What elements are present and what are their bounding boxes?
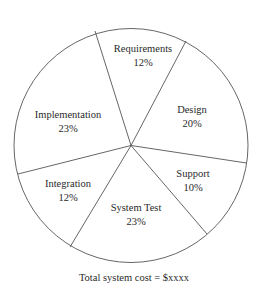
slice-label-implementation: Implementation — [35, 109, 102, 120]
slice-pct-implementation: 23% — [58, 123, 78, 134]
pie-chart: Requirements 12% Design 20% Support 10% … — [0, 0, 262, 291]
slice-label-support: Support — [176, 168, 209, 179]
slice-pct-support: 10% — [183, 182, 203, 193]
slice-label-design: Design — [177, 104, 207, 115]
slice-label-requirements: Requirements — [114, 43, 172, 54]
slice-pct-system-test: 23% — [126, 216, 146, 227]
slice-label-system-test: System Test — [111, 202, 162, 213]
total-cost-caption: Total system cost = $xxxx — [79, 272, 190, 283]
slice-label-integration: Integration — [45, 178, 92, 189]
slice-pct-requirements: 12% — [133, 57, 153, 68]
slice-pct-design: 20% — [182, 118, 202, 129]
slice-pct-integration: 12% — [58, 192, 78, 203]
